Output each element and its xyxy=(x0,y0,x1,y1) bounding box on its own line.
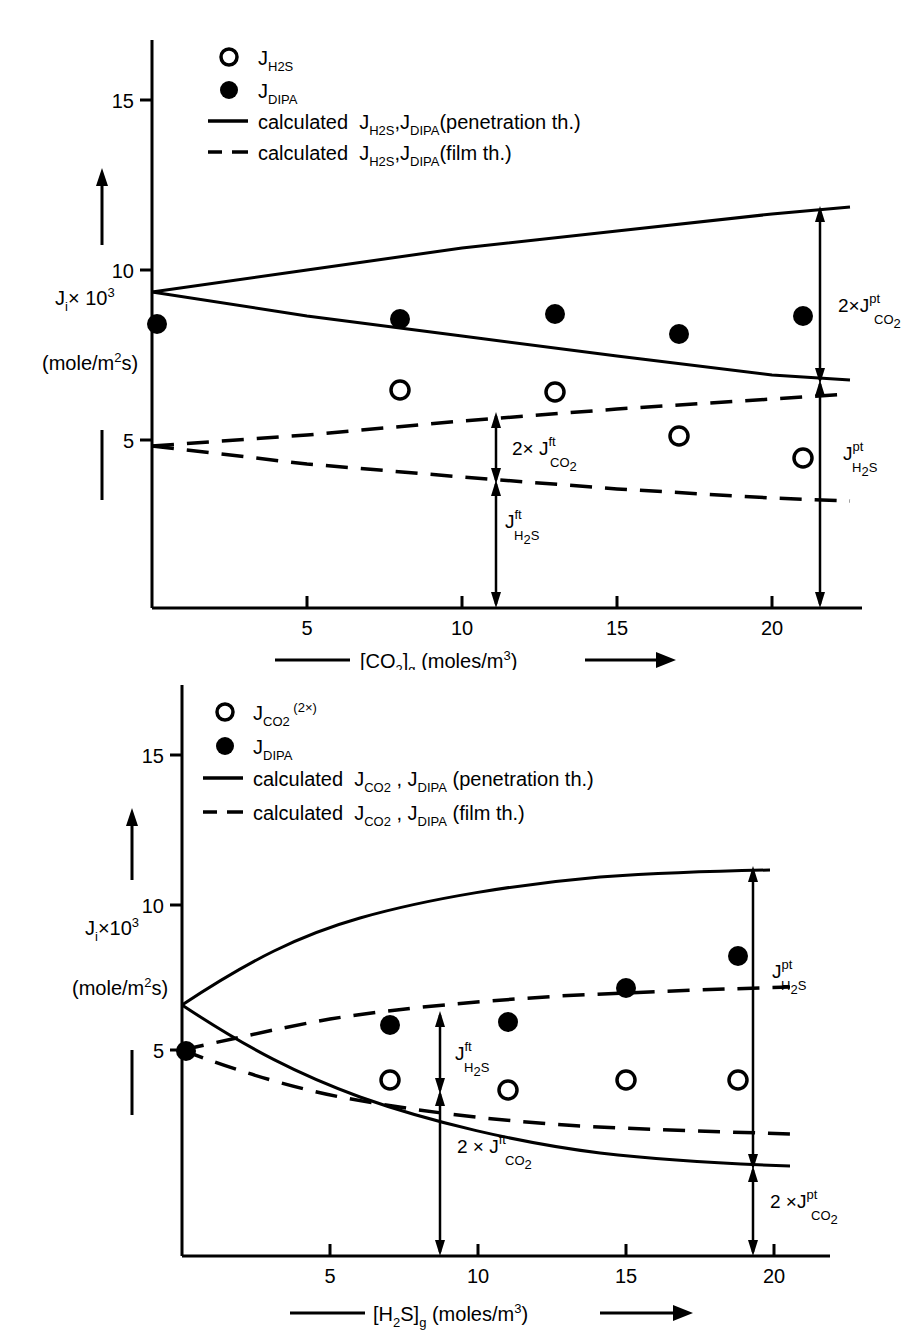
annotation-label-Jpt-H2S: JptH2S xyxy=(772,957,807,997)
arrow-head-up-3 xyxy=(491,412,501,428)
legend4-j1: J xyxy=(354,802,364,824)
annot2-sub: CO xyxy=(811,1208,831,1223)
data-point-jdipa xyxy=(176,1041,196,1061)
legend3-sub1: CO2 xyxy=(364,780,391,795)
arrow-head-up-1 xyxy=(748,866,758,882)
data-point-jh2s xyxy=(391,381,409,399)
legend4-sub2: DIPA xyxy=(418,814,448,829)
x-tick-label-10: 10 xyxy=(467,1265,489,1287)
legend3-sub2: DIPA xyxy=(410,123,440,138)
data-point-jh2s xyxy=(546,383,564,401)
x-tick-label-15: 15 xyxy=(606,617,628,639)
legend-item-4: calculated JH2S,JDIPA(film th.) xyxy=(258,142,512,169)
y-axis-arrow-head xyxy=(96,168,108,186)
legend1-j: J xyxy=(253,702,263,724)
x-title-open: [H xyxy=(373,1303,393,1325)
curve-film-upper xyxy=(152,394,850,446)
annotation-label-2xJft-CO2: 2 × JftCO2 xyxy=(457,1132,532,1172)
legend4-sub2: DIPA xyxy=(410,154,440,169)
data-point-jdipa xyxy=(616,978,636,998)
curve-penetration-lower xyxy=(152,292,850,380)
legend4-theory: (film th.) xyxy=(439,142,511,164)
y-axis-title: Ji× 103 xyxy=(55,285,115,314)
x-axis-title: [H2S]g (moles/m3) xyxy=(373,1301,528,1330)
arrow-head-up-4 xyxy=(491,480,501,496)
y-axis-arrow-head xyxy=(126,808,138,826)
arrow-head-up-4 xyxy=(435,1090,445,1106)
y-tick-label-5: 5 xyxy=(153,1040,164,1062)
y-tick-label-10: 10 xyxy=(112,260,134,282)
chart-bottom-panel: 15 10 5 5 10 15 20 Ji×103 (mole/m2s) [H2… xyxy=(0,660,918,1341)
legend-filled-circle-icon xyxy=(216,737,234,755)
x-title-sub2: 2 xyxy=(393,1315,400,1330)
annot4-sub: H xyxy=(514,528,523,543)
legend3-theory: (penetration th.) xyxy=(453,768,594,790)
chart-top-panel: 15 10 5 5 10 15 20 Ji× 103 (mole/m2s) [C… xyxy=(0,0,918,670)
y-units-close: s) xyxy=(151,977,168,999)
data-point-jdipa xyxy=(498,1012,518,1032)
legend3-sub1: H2S xyxy=(369,123,395,138)
annot4-pre: 2 × J xyxy=(457,1136,499,1157)
legend4-theory: (film th.) xyxy=(453,802,525,824)
data-point-jh2s xyxy=(670,427,688,445)
legend4-j1: J xyxy=(359,142,369,164)
annot3-sub2: 2 xyxy=(570,459,577,474)
annot1-sub2: 2 xyxy=(790,982,797,997)
y-title-times: ×10 xyxy=(98,917,132,939)
arrow-head-up-3 xyxy=(435,1011,445,1027)
x-title-subg: g xyxy=(419,1315,426,1330)
annot1-sub: H xyxy=(781,978,790,993)
legend-open-circle-icon xyxy=(217,704,233,720)
legend2-j: J xyxy=(253,736,263,758)
annotation-label-2xJft-CO2: 2× JftCO2 xyxy=(512,434,577,474)
legend-item-1: JH2S xyxy=(258,47,294,74)
legend1-sub: CO2 xyxy=(263,714,290,729)
annot2-sup: pt xyxy=(853,439,864,454)
legend3-theory: (penetration th.) xyxy=(439,111,580,133)
x-tick-label-15: 15 xyxy=(615,1265,637,1287)
annot4-sup: ft xyxy=(499,1132,507,1147)
annot4-sup: ft xyxy=(515,507,523,522)
annot1-pre: 2×J xyxy=(838,295,869,316)
data-point-jdipa xyxy=(390,309,410,329)
x-tick-label-20: 20 xyxy=(761,617,783,639)
annot2-sub3: S xyxy=(869,460,878,475)
y-units-exp: 2 xyxy=(144,975,151,990)
annot3-sup: ft xyxy=(548,434,556,449)
data-point-jco2 xyxy=(617,1071,635,1089)
x-title-units-close: ) xyxy=(521,1303,528,1325)
chart-bottom-svg: 15 10 5 5 10 15 20 Ji×103 (mole/m2s) [H2… xyxy=(0,660,918,1341)
annot3-sub: H xyxy=(464,1060,473,1075)
annotation-label-Jft-H2S: JftH2S xyxy=(505,507,540,547)
annot4-sub2: 2 xyxy=(525,1157,532,1172)
data-point-jdipa xyxy=(147,314,167,334)
y-units-open: (mole/m xyxy=(42,352,114,374)
annot1-sub3: S xyxy=(798,978,807,993)
data-point-jh2s xyxy=(794,449,812,467)
y-tick-label-15: 15 xyxy=(112,90,134,112)
y-title-exp: 3 xyxy=(132,915,139,930)
data-point-jdipa xyxy=(545,304,565,324)
x-tick-label-20: 20 xyxy=(763,1265,785,1287)
legend-item-2: JDIPA xyxy=(258,80,298,107)
annot2-sub: H xyxy=(852,460,861,475)
annot2-sub2: 2 xyxy=(861,464,868,479)
legend4-calc: calculated xyxy=(258,142,348,164)
legend3-sub2: DIPA xyxy=(418,780,448,795)
annot3-sub: CO xyxy=(550,455,570,470)
x-title-units-exp: 3 xyxy=(514,1301,521,1316)
legend3-calc: calculated xyxy=(258,111,348,133)
data-point-jdipa xyxy=(793,306,813,326)
legend2-j: J xyxy=(258,80,268,102)
x-axis-arrow-head xyxy=(673,1305,693,1321)
y-title-times: × 10 xyxy=(68,287,107,309)
legend4-j2: J xyxy=(408,802,418,824)
annot2-sup: pt xyxy=(806,1187,817,1202)
annot1-sup: pt xyxy=(782,957,793,972)
legend2-sub: DIPA xyxy=(263,748,293,763)
y-units-exp: 2 xyxy=(114,350,121,365)
data-point-jco2 xyxy=(499,1081,517,1099)
y-tick-label-15: 15 xyxy=(142,745,164,767)
data-point-jdipa xyxy=(380,1015,400,1035)
annot4-sub2: 2 xyxy=(523,532,530,547)
